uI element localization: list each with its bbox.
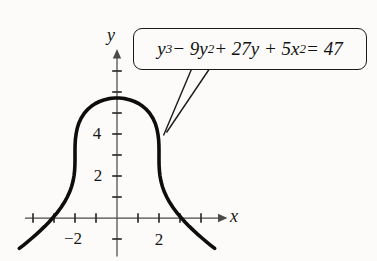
y-tick-label-2: 2: [94, 167, 103, 184]
equation-text: − 9y: [172, 38, 208, 60]
x-tick-label-2: 2: [155, 231, 164, 248]
y-axis-label: y: [107, 26, 115, 44]
x-axis-arrowhead: [218, 214, 228, 222]
equation-callout: y3 − 9y2 + 27y + 5x2 = 47: [133, 28, 367, 70]
y-axis-arrowhead: [113, 49, 121, 59]
x-tick-label-neg2: −2: [64, 230, 82, 247]
y-tick-label-4: 4: [93, 125, 102, 142]
equation-text: = 47: [306, 38, 343, 60]
equation-text: y: [157, 38, 165, 60]
x-axis-label: x: [230, 207, 238, 225]
graph-figure: y x 4 2 −2 2 y3 − 9y2 + 27y + 5x2 = 47: [0, 0, 377, 261]
equation-text: + 27y + 5x: [214, 38, 299, 60]
